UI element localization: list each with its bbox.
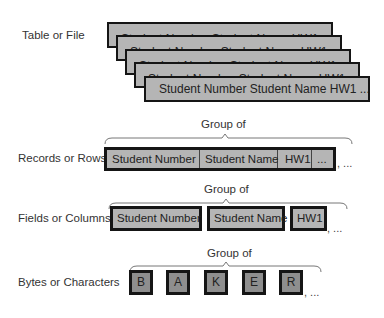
level-label-records: Records or Rows [18, 152, 106, 164]
field-student-name: Student Name [207, 206, 285, 231]
level-label-fields: Fields or Columns [18, 212, 111, 224]
level-label-bytes: Bytes or Characters [18, 276, 120, 288]
char-e: E [242, 270, 266, 295]
record-cell-student-number: Student Number [107, 150, 200, 168]
level-label-table: Table or File [22, 29, 85, 41]
record-continuation: , ... [337, 157, 352, 169]
table-record-front: Student Number Student Name HW1 ... [144, 76, 370, 102]
group-label-fields: Group of [204, 183, 249, 195]
char-k: K [204, 270, 228, 295]
record-cell-ellipsis: ... [312, 150, 333, 168]
characters-continuation: , ... [304, 286, 319, 298]
record-cell-student-name: Student Name [200, 150, 278, 168]
brace-records [104, 133, 354, 145]
fields-continuation: , ... [327, 222, 342, 234]
group-label-bytes: Group of [207, 247, 252, 259]
char-a: A [166, 270, 190, 295]
group-label-records: Group of [201, 118, 246, 130]
field-hw1: HW1 [290, 206, 327, 231]
record-row: Student Number Student Name HW1 ... [104, 147, 336, 171]
char-b: B [129, 270, 153, 295]
record-cell-hw1: HW1 [278, 150, 312, 168]
field-student-number: Student Number [110, 206, 202, 231]
char-r: R [279, 270, 303, 295]
